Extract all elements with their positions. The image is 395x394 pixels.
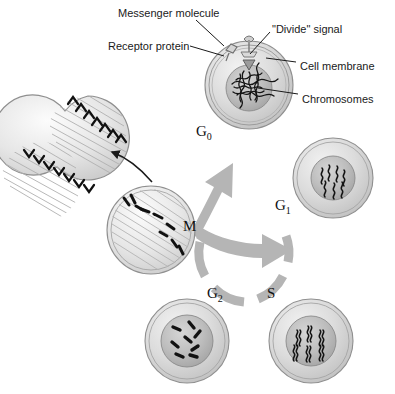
cell-g1 [293, 138, 373, 218]
stage-label-g0: G0 [196, 124, 212, 142]
stage-label-s-text: S [267, 285, 275, 301]
stage-label-g1-text: G [275, 197, 286, 213]
stage-label-s: S [267, 286, 275, 301]
stage-label-g2-sub: 2 [218, 293, 223, 304]
stage-label-m-text: M [183, 218, 196, 234]
dividing-cell [0, 87, 129, 218]
stage-label-g1-sub: 1 [286, 205, 291, 216]
cell-g2 [145, 299, 229, 383]
stage-label-g1: G1 [275, 198, 291, 216]
cell-s [269, 299, 353, 383]
callout-cell-membrane: Cell membrane [300, 61, 375, 72]
stage-label-m: M [183, 219, 196, 234]
callout-divide-signal: "Divide" signal [272, 24, 342, 35]
cell-cycle-diagram: Messenger molecule Receptor protein "Div… [0, 0, 395, 394]
stage-label-g2: G2 [207, 286, 223, 304]
stage-label-g0-sub: 0 [207, 131, 212, 142]
stage-label-g2-text: G [207, 285, 218, 301]
callout-chromosomes: Chromosomes [302, 94, 374, 105]
callout-messenger-molecule: Messenger molecule [118, 8, 220, 19]
cell-g0 [205, 36, 293, 129]
stage-label-g0-text: G [196, 123, 207, 139]
callout-receptor-protein: Receptor protein [108, 41, 189, 52]
